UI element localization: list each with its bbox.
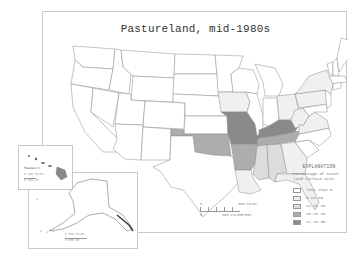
scale-miles-label: 500 MILES — [238, 202, 257, 206]
state-south-dakota — [173, 74, 219, 96]
scale-miles-zero: 0 — [200, 202, 202, 206]
legend-subtitle: Percentage of state land surface area — [293, 172, 345, 182]
state-arizona — [113, 124, 143, 160]
state-new-york — [295, 70, 333, 94]
legend-label: 5 to 10 — [306, 196, 323, 201]
legend-item: 11 to 15 — [293, 202, 345, 210]
state-kansas — [184, 116, 228, 134]
legend-swatch — [293, 204, 301, 209]
state-iowa — [218, 92, 250, 112]
state-michigan — [255, 64, 283, 96]
legend-swatch — [293, 212, 301, 217]
state-wyoming — [131, 76, 174, 102]
legend-label: 21 to 30 — [306, 220, 325, 225]
legend-item: 21 to 30 — [293, 218, 345, 226]
scale-km-label: 500 KILOMETERS — [222, 213, 251, 217]
legend: EXPLANATION Percentage of state land sur… — [293, 164, 345, 226]
legend-swatch — [293, 220, 301, 225]
state-wisconsin — [231, 68, 259, 94]
alaska-scale-km: 0 500 KM — [65, 239, 87, 243]
hawaii-label: HAWAII — [24, 166, 40, 170]
state-north-dakota — [174, 54, 217, 74]
legend-label: less than 5 — [306, 188, 332, 193]
hawaii-scale-miles: 0 100 MILES — [24, 173, 44, 177]
state-colorado — [143, 101, 185, 129]
scale-ticks — [200, 207, 240, 212]
hawaii-scale-km: 0 100 KM — [24, 179, 44, 183]
legend-swatch — [293, 196, 301, 201]
hawaii-scale: 0 100 MILES 0 100 KM — [24, 173, 44, 182]
alaska-scale-miles: 0 500 MILES — [65, 233, 87, 237]
legend-heading: EXPLANATION — [293, 164, 345, 169]
legend-label: 11 to 15 — [306, 204, 325, 209]
hawaii-inset: HAWAII 0 100 MILES 0 100 KM — [18, 145, 73, 190]
legend-label: 16 to 20 — [306, 212, 325, 217]
legend-item: 5 to 10 — [293, 194, 345, 202]
alaska-scale: 0 500 MILES 0 500 KM — [65, 233, 87, 242]
state-arkansas — [231, 144, 257, 170]
scale-km-zero: 0 — [200, 213, 202, 217]
legend-swatch — [293, 188, 301, 193]
legend-item: 16 to 20 — [293, 210, 345, 218]
state-maine — [337, 38, 348, 72]
scale-bar: 0 500 MILES 0 500 KILOMETERS — [200, 202, 280, 217]
legend-item: less than 5 — [293, 186, 345, 194]
state-new-mexico — [141, 127, 171, 160]
